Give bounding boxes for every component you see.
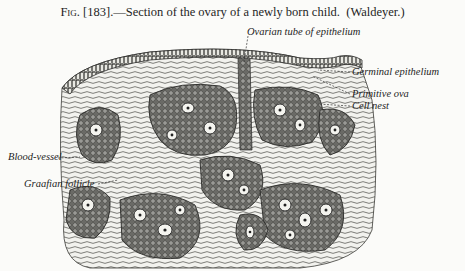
label-graafian-follicle: Graafian follicle xyxy=(24,178,94,189)
label-cell-nest: Cell nest xyxy=(352,100,389,111)
label-germinal-epithelium: Germinal epithelium xyxy=(352,66,439,77)
ovarian-tube xyxy=(238,58,252,150)
ovary-section-illustration xyxy=(0,0,465,271)
label-primitive-ova: Primitive ova xyxy=(352,88,409,99)
label-ovarian-tube: Ovarian tube of epithelium xyxy=(247,26,360,37)
label-blood-vessel: Blood-vessel xyxy=(8,151,62,162)
